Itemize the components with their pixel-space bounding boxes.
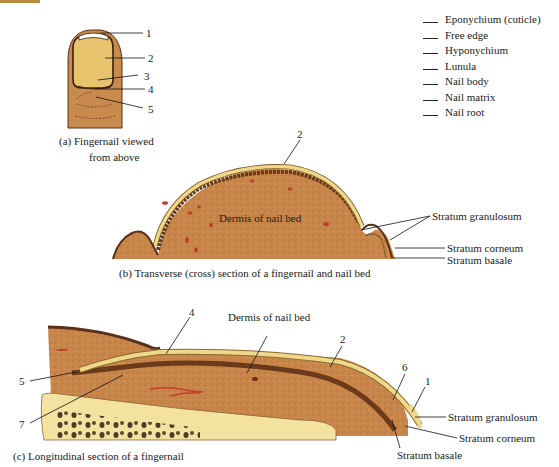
- panel-c-number-6: 6: [402, 361, 408, 373]
- word-bank-item: Nail root: [423, 105, 541, 121]
- panel-c-number-7: 7: [19, 418, 25, 430]
- answer-blank[interactable]: [423, 53, 438, 54]
- panel-b-stratum-granulosum-label: Stratum granulosum: [432, 210, 522, 223]
- panel-c-stratum-granulosum-label: Stratum granulosum: [448, 411, 538, 424]
- panel-b-number-2: 2: [297, 128, 303, 140]
- panel-a-caption-line2: from above: [89, 151, 139, 164]
- panel-c-number-5: 5: [19, 375, 25, 387]
- panel-b-cross-section: [113, 140, 445, 259]
- panel-c-number-1: 1: [425, 375, 431, 387]
- word-bank-label: Nail matrix: [445, 91, 495, 104]
- panel-c-number-2: 2: [340, 333, 346, 345]
- panel-c-longitudinal-section: [30, 317, 457, 448]
- panel-a-number-3: 3: [144, 70, 150, 82]
- word-bank-item: Hyponychium: [423, 43, 541, 59]
- answer-blank[interactable]: [423, 69, 438, 70]
- answer-blank[interactable]: [423, 115, 438, 116]
- panel-c-dermis-label: Dermis of nail bed: [228, 311, 310, 324]
- word-bank-label: Nail root: [445, 106, 484, 119]
- word-bank-item: Free edge: [423, 28, 541, 44]
- panel-a-caption-line1: (a) Fingernail viewed: [59, 135, 154, 148]
- word-bank-label: Nail body: [445, 75, 489, 88]
- word-bank-item: Eponychium (cuticle): [423, 12, 541, 28]
- answer-blank[interactable]: [423, 22, 438, 23]
- panel-c-stratum-basale-label: Stratum basale: [397, 449, 462, 462]
- word-bank-item: Nail matrix: [423, 90, 541, 106]
- answer-blank[interactable]: [423, 38, 438, 39]
- word-bank-label: Hyponychium: [445, 44, 508, 57]
- panel-a-number-4: 4: [148, 83, 154, 95]
- answer-blank[interactable]: [423, 100, 438, 101]
- panel-c-stratum-corneum-label: Stratum corneum: [459, 432, 535, 445]
- word-bank-item: Lunula: [423, 59, 541, 75]
- panel-b-dermis-label: Dermis of nail bed: [219, 212, 301, 225]
- word-bank-label: Lunula: [445, 60, 476, 73]
- answer-blank[interactable]: [423, 84, 438, 85]
- panel-b-stratum-basale-label: Stratum basale: [447, 254, 512, 267]
- word-bank-item: Nail body: [423, 74, 541, 90]
- word-bank-label: Free edge: [445, 29, 488, 42]
- panel-a-number-1: 1: [146, 27, 152, 39]
- panel-b-caption: (b) Transverse (cross) section of a fing…: [119, 267, 370, 280]
- panel-c-number-4: 4: [189, 306, 195, 318]
- panel-c-caption: (c) Longitudinal section of a fingernail: [13, 450, 184, 463]
- panel-a-number-2: 2: [148, 52, 154, 64]
- word-bank-label: Eponychium (cuticle): [445, 13, 541, 26]
- panel-a-finger: [68, 30, 145, 128]
- panel-a-number-5: 5: [148, 103, 154, 115]
- answer-word-bank: Eponychium (cuticle) Free edge Hyponychi…: [423, 12, 541, 121]
